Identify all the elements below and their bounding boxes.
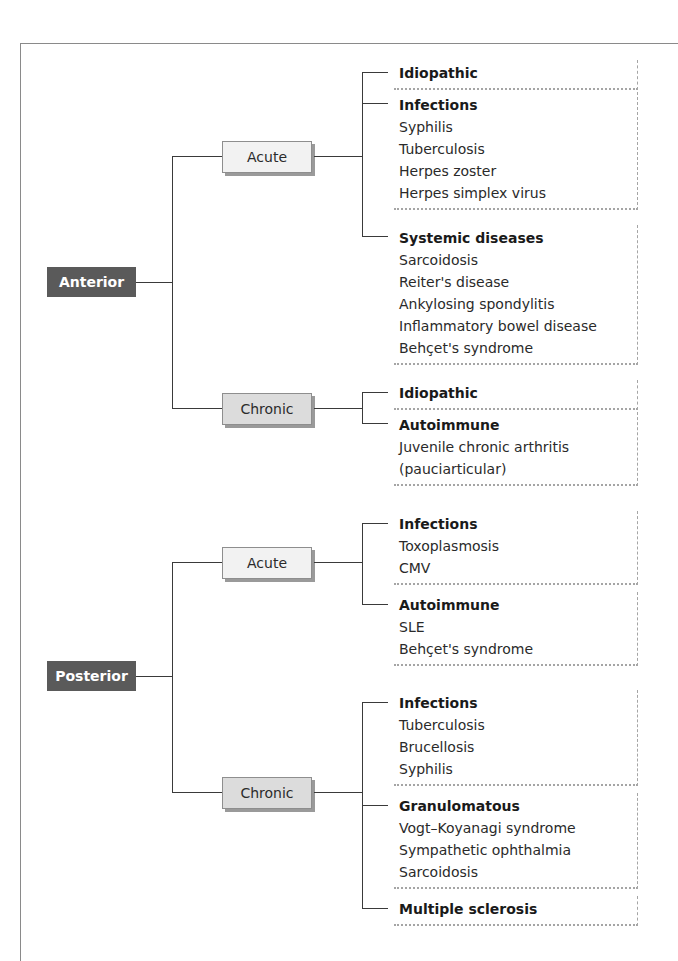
connector: [362, 523, 363, 605]
connector: [314, 156, 362, 157]
group-item: Vogt–Koyanagi syndrome: [399, 817, 637, 839]
group-posterior-chronic-ms: Multiple sclerosis: [394, 896, 638, 926]
connector: [136, 676, 173, 677]
group-title: Idiopathic: [399, 382, 637, 404]
group-anterior-chronic-idiopathic: Idiopathic: [394, 380, 638, 410]
connector: [362, 236, 388, 237]
group-item: Syphilis: [399, 758, 637, 780]
connector: [172, 792, 222, 793]
connector: [362, 908, 388, 909]
connector: [314, 408, 362, 409]
group-item: Behçet's syndrome: [399, 638, 637, 660]
connector: [362, 423, 388, 424]
group-item: Reiter's disease: [399, 271, 637, 293]
group-posterior-chronic-granulomatous: Granulomatous Vogt–Koyanagi syndrome Sym…: [394, 793, 638, 889]
group-title: Multiple sclerosis: [399, 898, 637, 920]
group-anterior-chronic-autoimmune: Autoimmune Juvenile chronic arthritis (p…: [394, 412, 638, 486]
root-node-posterior: Posterior: [47, 661, 136, 691]
group-item: Tuberculosis: [399, 714, 637, 736]
group-anterior-acute-systemic: Systemic diseases Sarcoidosis Reiter's d…: [394, 225, 638, 365]
group-item: Juvenile chronic arthritis: [399, 436, 637, 458]
connector: [362, 103, 388, 104]
group-item: Syphilis: [399, 116, 637, 138]
group-title: Autoimmune: [399, 414, 637, 436]
group-item: Inflammatory bowel disease: [399, 315, 637, 337]
connector: [362, 392, 363, 424]
group-item: CMV: [399, 557, 637, 579]
root-node-anterior: Anterior: [47, 267, 136, 297]
connector: [314, 562, 362, 563]
connector: [362, 604, 388, 605]
group-posterior-acute-autoimmune: Autoimmune SLE Behçet's syndrome: [394, 592, 638, 666]
connector: [362, 72, 388, 73]
group-title: Idiopathic: [399, 62, 637, 84]
group-posterior-acute-infections: Infections Toxoplasmosis CMV: [394, 511, 638, 585]
group-item: Herpes simplex virus: [399, 182, 637, 204]
group-title: Infections: [399, 692, 637, 714]
group-item: Toxoplasmosis: [399, 535, 637, 557]
connector: [172, 408, 222, 409]
node-posterior-chronic: Chronic: [222, 777, 312, 809]
group-item: Sarcoidosis: [399, 249, 637, 271]
connector: [314, 792, 362, 793]
connector: [362, 805, 388, 806]
frame-left-border: [20, 43, 21, 961]
connector: [172, 562, 173, 793]
connector: [172, 156, 173, 409]
node-anterior-chronic: Chronic: [222, 393, 312, 425]
group-title: Infections: [399, 94, 637, 116]
connector: [362, 523, 388, 524]
connector: [362, 392, 388, 393]
connector: [136, 282, 173, 283]
frame-top-border: [20, 43, 678, 44]
group-item: Brucellosis: [399, 736, 637, 758]
group-item: SLE: [399, 616, 637, 638]
group-item: Sarcoidosis: [399, 861, 637, 883]
connector: [172, 156, 222, 157]
group-title: Autoimmune: [399, 594, 637, 616]
group-item: Sympathetic ophthalmia: [399, 839, 637, 861]
group-item: Herpes zoster: [399, 160, 637, 182]
group-item: Ankylosing spondylitis: [399, 293, 637, 315]
group-anterior-acute-infections: Infections Syphilis Tuberculosis Herpes …: [394, 92, 638, 210]
group-item: Behçet's syndrome: [399, 337, 637, 359]
group-posterior-chronic-infections: Infections Tuberculosis Brucellosis Syph…: [394, 690, 638, 786]
connector: [172, 562, 222, 563]
group-anterior-acute-idiopathic: Idiopathic: [394, 60, 638, 90]
group-title: Systemic diseases: [399, 227, 637, 249]
node-anterior-acute: Acute: [222, 141, 312, 173]
group-title: Granulomatous: [399, 795, 637, 817]
connector: [362, 72, 363, 236]
connector: [362, 702, 388, 703]
group-item: Tuberculosis: [399, 138, 637, 160]
group-item: (pauciarticular): [399, 458, 637, 480]
group-title: Infections: [399, 513, 637, 535]
node-posterior-acute: Acute: [222, 547, 312, 579]
